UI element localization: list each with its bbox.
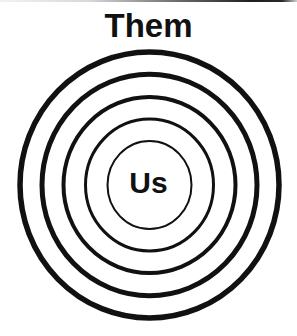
- inner-label-us: Us: [0, 165, 297, 201]
